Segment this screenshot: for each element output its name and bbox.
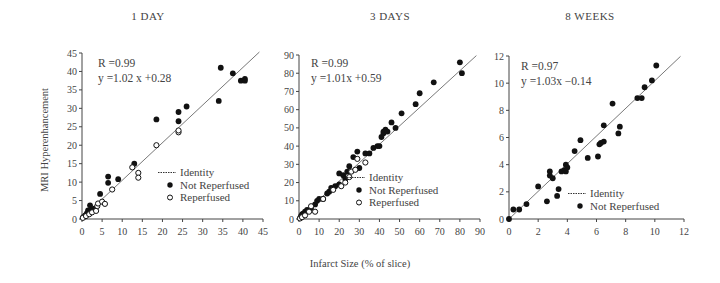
filled-circle-icon: [356, 187, 361, 192]
data-point-not-reperfused: [610, 101, 616, 107]
data-point-not-reperfused: [154, 117, 160, 123]
x-tick-label: 8: [623, 226, 628, 237]
y-tick-label: 10: [67, 177, 77, 188]
x-tick-label: 12: [679, 226, 689, 237]
r-value: R =0.99: [98, 57, 135, 69]
x-tick-label: 35: [218, 226, 228, 237]
data-point-not-reperfused: [393, 125, 399, 131]
panel-8-weeks: 8 WEEKS 024681012024681012R =0.97y =1.03…: [494, 10, 689, 237]
data-point-reperfused: [312, 209, 317, 214]
data-point-not-reperfused: [506, 216, 512, 222]
x-axis-label: Infarct Size (% of slice): [310, 258, 411, 270]
x-tick-label: 6: [594, 226, 599, 237]
y-tick-label: 80: [284, 68, 294, 79]
data-point-reperfused: [355, 156, 360, 161]
y-tick-label: 40: [284, 141, 294, 152]
data-point-not-reperfused: [346, 163, 352, 169]
x-tick-label: 20: [157, 226, 167, 237]
data-point-reperfused: [321, 196, 326, 201]
y-tick-label: 25: [67, 121, 77, 132]
panel-title: 8 WEEKS: [565, 10, 614, 22]
y-tick-label: 10: [284, 195, 294, 206]
data-point-not-reperfused: [642, 84, 648, 90]
data-point-not-reperfused: [617, 124, 623, 130]
data-point-not-reperfused: [544, 198, 550, 204]
data-point-reperfused: [102, 201, 107, 206]
y-tick-label: 20: [67, 140, 77, 151]
x-tick-label: 40: [238, 226, 248, 237]
x-tick-label: 25: [178, 226, 188, 237]
data-point-not-reperfused: [176, 109, 182, 115]
data-point-not-reperfused: [377, 143, 383, 149]
filled-circle-icon: [577, 203, 582, 208]
y-tick-label: 0: [499, 214, 504, 225]
data-point-reperfused: [154, 143, 159, 148]
data-point-reperfused: [130, 165, 135, 170]
y-tick-label: 10: [494, 78, 504, 89]
legend-label: Not Reperfused: [369, 184, 439, 196]
data-point-not-reperfused: [366, 151, 372, 157]
y-tick-label: 4: [499, 159, 504, 170]
panel-title: 1 DAY: [131, 10, 165, 22]
x-tick-label: 60: [415, 226, 425, 237]
y-tick-label: 5: [72, 195, 77, 206]
data-point-not-reperfused: [595, 154, 601, 160]
data-point-not-reperfused: [184, 104, 190, 110]
data-point-not-reperfused: [550, 175, 556, 181]
regression-equation: y =1.03x −0.14: [521, 75, 592, 88]
data-point-not-reperfused: [459, 70, 465, 76]
x-tick-label: 10: [314, 226, 324, 237]
panel-1-day: 1 DAY 0510152025303540450510152025303540…: [67, 10, 268, 237]
data-point-not-reperfused: [601, 139, 607, 145]
open-circle-icon: [357, 200, 362, 205]
legend-label: Reperfused: [180, 191, 231, 203]
y-tick-label: 45: [67, 48, 77, 59]
data-point-not-reperfused: [105, 174, 111, 180]
x-tick-label: 50: [395, 226, 405, 237]
data-point-reperfused: [353, 167, 358, 172]
y-tick-label: 2: [499, 186, 504, 197]
data-point-not-reperfused: [242, 76, 248, 82]
y-tick-label: 35: [67, 84, 77, 95]
x-tick-label: 80: [455, 226, 465, 237]
filled-circle-icon: [167, 182, 172, 187]
data-point-not-reperfused: [457, 59, 463, 65]
data-point-reperfused: [363, 160, 368, 165]
y-axis-label: MRI Hyperenhancement: [39, 88, 50, 192]
data-point-reperfused: [343, 180, 348, 185]
x-tick-label: 45: [258, 226, 268, 237]
data-point-not-reperfused: [554, 193, 560, 199]
y-tick-label: 8: [499, 105, 504, 116]
data-point-not-reperfused: [97, 191, 103, 197]
x-tick-label: 30: [354, 226, 364, 237]
x-tick-label: 0: [507, 226, 512, 237]
x-tick-label: 15: [137, 226, 147, 237]
data-point-not-reperfused: [535, 184, 541, 190]
data-point-reperfused: [306, 209, 311, 214]
y-tick-label: 30: [284, 159, 294, 170]
data-point-not-reperfused: [417, 90, 423, 96]
data-point-not-reperfused: [176, 118, 182, 124]
regression-equation: y =1.01x +0.59: [311, 72, 382, 85]
y-tick-label: 40: [67, 66, 77, 77]
data-point-reperfused: [308, 204, 313, 209]
y-tick-label: 15: [67, 158, 77, 169]
data-point-not-reperfused: [389, 120, 395, 126]
data-point-not-reperfused: [564, 164, 570, 170]
x-tick-label: 10: [117, 226, 127, 237]
data-point-not-reperfused: [516, 207, 522, 213]
legend-label: Identity: [590, 187, 625, 199]
x-tick-label: 5: [100, 226, 105, 237]
data-point-not-reperfused: [578, 137, 584, 143]
y-tick-label: 0: [72, 214, 77, 225]
data-point-not-reperfused: [601, 122, 607, 128]
r-value: R =0.99: [311, 57, 348, 69]
data-point-not-reperfused: [431, 79, 437, 85]
data-point-not-reperfused: [510, 207, 516, 213]
x-tick-label: 0: [80, 226, 85, 237]
data-point-not-reperfused: [649, 78, 655, 84]
data-point-not-reperfused: [556, 186, 562, 192]
data-point-not-reperfused: [615, 131, 621, 137]
x-tick-label: 10: [650, 226, 660, 237]
y-tick-label: 60: [284, 104, 294, 115]
